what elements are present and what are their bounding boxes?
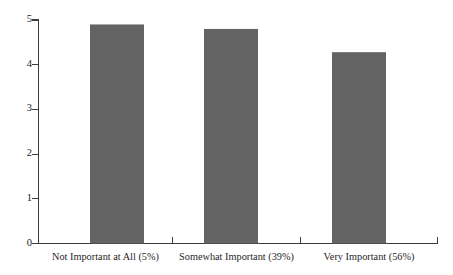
bar-somewhat-important <box>204 29 258 244</box>
y-tick-label-3: 3 <box>10 103 32 114</box>
bar-not-important-at-all <box>90 24 144 243</box>
x-tick-label-somewhat-important: Somewhat Important (39%) <box>168 252 305 262</box>
y-tick-label-0: 0 <box>10 238 32 249</box>
y-tick-label-2: 2 <box>10 148 32 159</box>
bar-very-important <box>332 52 386 243</box>
x-tick-label-very-important: Very Important (56%) <box>300 252 438 262</box>
y-tick-label-5: 5 <box>10 14 32 25</box>
y-tick-label-1: 1 <box>10 193 32 204</box>
y-tick-label-4: 4 <box>10 59 32 70</box>
plot-area: 5 4 3 2 1 0 Not Important at All (5%) So… <box>0 0 453 275</box>
bar-chart-figure: 5 4 3 2 1 0 Not Important at All (5%) So… <box>0 0 453 275</box>
x-tick-label-not-important-at-all: Not Important at All (5%) <box>39 252 172 262</box>
chart-canvas <box>0 0 453 275</box>
